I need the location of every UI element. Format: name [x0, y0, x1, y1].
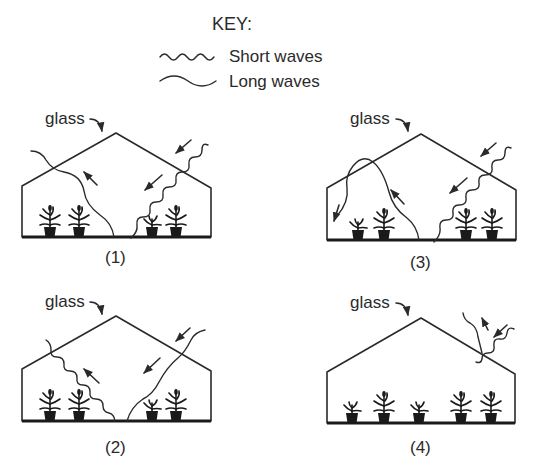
glass-pointer-arrow	[396, 303, 408, 315]
plant	[344, 402, 361, 423]
greenhouse-panel-3: glass (3)	[327, 109, 516, 272]
panel-number: (1)	[105, 248, 126, 267]
plant	[456, 208, 476, 240]
glass-pointer-arrow	[90, 302, 102, 314]
glass-pointer-arrow	[90, 119, 102, 131]
glass-label: glass	[350, 109, 390, 128]
reflected-arrow	[334, 205, 339, 221]
glass-pointer-arrow	[396, 119, 408, 131]
outgoing-arrow	[84, 369, 99, 383]
key-short-waves-label: Short waves	[229, 47, 323, 66]
plant	[69, 205, 89, 237]
incoming-arrow	[176, 328, 190, 341]
plant	[40, 205, 60, 237]
plant	[144, 216, 161, 237]
glass-label: glass	[45, 109, 85, 128]
long-wave-icon	[160, 76, 216, 86]
glass-label: glass	[45, 292, 85, 311]
reflected-long-wave	[463, 313, 482, 353]
incoming-arrow	[494, 325, 507, 337]
greenhouse-panel-4: glass (4)	[327, 293, 515, 457]
incoming-short-wave	[476, 328, 514, 362]
plant	[144, 400, 161, 421]
plant	[166, 205, 186, 237]
panel-number: (4)	[410, 438, 431, 457]
panel-number: (2)	[105, 438, 126, 457]
key-title: KEY:	[212, 14, 252, 34]
incoming-long-wave	[127, 330, 205, 421]
greenhouse-panel-1: glass (1)	[22, 109, 211, 267]
outgoing-arrow	[482, 318, 488, 330]
key-legend: KEY: Short waves Long waves	[160, 14, 323, 91]
plant	[166, 389, 186, 421]
plant	[40, 389, 60, 421]
short-wave-icon	[160, 54, 214, 60]
plant	[481, 391, 501, 423]
panel-number: (3)	[410, 253, 431, 272]
plant	[451, 391, 471, 423]
key-long-waves-label: Long waves	[229, 72, 320, 91]
incoming-arrow	[145, 175, 162, 190]
incoming-arrow	[481, 143, 496, 156]
plant	[374, 208, 394, 240]
incoming-arrow	[176, 140, 191, 153]
incoming-arrow	[144, 358, 160, 373]
plant	[374, 391, 394, 423]
outgoing-arrow	[84, 172, 97, 185]
incoming-arrow	[450, 178, 467, 193]
plant	[350, 219, 367, 240]
glass-label: glass	[350, 293, 390, 312]
greenhouse-diagram: KEY: Short waves Long waves glass (1) gl…	[0, 0, 539, 474]
greenhouse-panel-2: glass (2)	[22, 292, 211, 457]
plant	[69, 389, 89, 421]
plant	[482, 208, 502, 240]
plant	[411, 402, 428, 423]
